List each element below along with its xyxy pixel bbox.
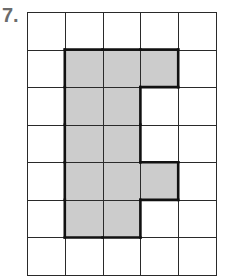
grid-cell: [178, 125, 217, 164]
shaded-cell: [103, 87, 142, 126]
grid-cell: [27, 12, 66, 51]
grid-cell: [27, 200, 66, 239]
shaded-cell: [65, 87, 104, 126]
grid-cell: [27, 50, 66, 89]
shaded-cell: [65, 125, 104, 164]
grid-cell: [27, 87, 66, 126]
shaded-cell: [65, 200, 104, 239]
shaded-cell: [103, 200, 142, 239]
grid-cell: [140, 87, 179, 126]
grid-cell: [103, 12, 142, 51]
shaded-cell: [65, 50, 104, 89]
grid-cell: [140, 12, 179, 51]
grid-cell: [65, 12, 104, 51]
square-grid: [27, 12, 216, 275]
grid-cell: [178, 200, 217, 239]
shaded-cell: [103, 125, 142, 164]
grid-cell: [140, 200, 179, 239]
shaded-cell: [140, 50, 179, 89]
grid-cell: [27, 162, 66, 201]
grid-cell: [178, 237, 217, 276]
grid-cell: [140, 125, 179, 164]
grid-cell: [27, 237, 66, 276]
shaded-cell: [65, 162, 104, 201]
shaded-cell: [140, 162, 179, 201]
grid-cell: [140, 237, 179, 276]
grid-cell: [178, 50, 217, 89]
grid-cell: [178, 87, 217, 126]
grid-cell: [103, 237, 142, 276]
problem-number: 7.: [2, 4, 19, 27]
grid-cell: [178, 12, 217, 51]
shaded-cell: [103, 50, 142, 89]
grid-cell: [27, 125, 66, 164]
shaded-cell: [103, 162, 142, 201]
grid-cell: [178, 162, 217, 201]
grid-cell: [65, 237, 104, 276]
